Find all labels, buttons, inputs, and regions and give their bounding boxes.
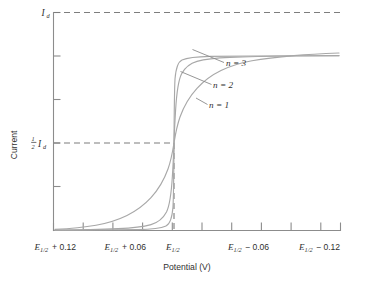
x-label-plus-006: E 1/2 + 0.06	[104, 242, 147, 254]
y-axis-ticks	[54, 13, 61, 187]
x-label-e-half-sub: 1/2	[172, 246, 181, 253]
y-label-id-subscript: d	[47, 12, 51, 19]
y-label-half-numerator: 1	[32, 135, 35, 142]
annotation-n-3-label: n = 3	[226, 58, 246, 68]
axes-group	[54, 13, 341, 231]
curve-n-1	[55, 53, 339, 229]
x-label-plus-006-value: + 0.06	[122, 242, 146, 252]
chart-svg: n = 3 n = 2 n = 1 I d 1 2 I d Current	[0, 0, 368, 283]
y-label-id-symbol: I	[41, 8, 46, 18]
y-label-half-id-symbol: I	[37, 139, 42, 149]
x-label-plus-012-sub: 1/2	[40, 246, 49, 253]
x-axis-labels: E 1/2 + 0.12 E 1/2 + 0.06 E 1/2 E 1/2 − …	[34, 242, 341, 254]
leader-n-1	[196, 98, 208, 105]
x-label-minus-012: E 1/2 − 0.12	[298, 242, 340, 254]
x-label-minus-006-value: − 0.06	[245, 242, 269, 252]
y-label-id: I d	[41, 8, 51, 19]
x-label-e-half: E 1/2	[165, 242, 180, 254]
annotation-n-2-label: n = 2	[213, 80, 233, 90]
y-axis-labels: I d 1 2 I d	[31, 8, 50, 150]
annotation-n-1-label: n = 1	[209, 100, 229, 110]
polarographic-wave-figure: n = 3 n = 2 n = 1 I d 1 2 I d Current	[0, 0, 368, 283]
y-axis-title: Current	[9, 130, 19, 159]
guide-lines	[54, 13, 340, 231]
y-label-half-id-subscript: d	[43, 143, 47, 150]
x-label-plus-012: E 1/2 + 0.12	[34, 242, 77, 254]
leader-n-2	[181, 72, 212, 85]
x-label-plus-006-sub: 1/2	[110, 246, 119, 253]
x-axis-title: Potential (V)	[163, 262, 210, 272]
annotation-labels: n = 3 n = 2 n = 1	[209, 58, 246, 110]
y-label-half-denominator: 2	[32, 143, 36, 150]
curves-group	[55, 53, 339, 230]
y-axis-title-group: Current	[9, 130, 19, 159]
x-label-minus-006-sub: 1/2	[234, 246, 243, 253]
x-label-plus-012-value: + 0.12	[52, 242, 76, 252]
x-label-minus-012-value: − 0.12	[316, 242, 340, 252]
x-label-minus-006: E 1/2 − 0.06	[227, 242, 269, 254]
y-label-half-id: 1 2 I d	[31, 135, 47, 150]
x-label-minus-012-sub: 1/2	[305, 246, 314, 253]
